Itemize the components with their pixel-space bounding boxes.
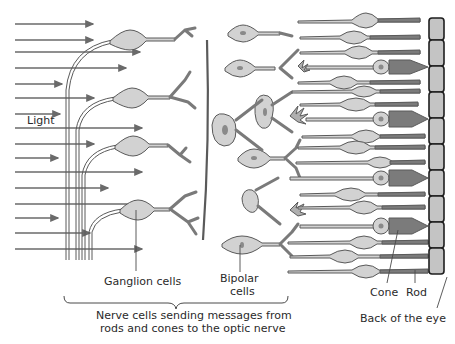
bipolar-cells-label-line1: Bipolar — [220, 272, 259, 285]
rod — [298, 13, 420, 28]
cone — [306, 111, 428, 127]
bipolar-cells-label-line2: cells — [230, 285, 255, 298]
rod — [296, 157, 425, 168]
rod — [300, 46, 420, 59]
rod — [288, 265, 428, 278]
light-label: Light — [27, 114, 54, 127]
rod — [300, 188, 425, 201]
rod — [288, 236, 428, 249]
rod — [290, 250, 428, 263]
photoreceptors — [288, 13, 428, 278]
brace-caption-line1: Nerve cells sending messages from — [96, 309, 292, 322]
cone — [290, 170, 428, 186]
cone — [306, 60, 428, 74]
brace-caption-line2: rods and cones to the optic nerve — [100, 322, 285, 335]
rod-label: Rod — [406, 286, 427, 299]
ganglion-cells-label: Ganglion cells — [104, 275, 181, 288]
rod — [300, 98, 418, 111]
amacrine-process — [203, 40, 208, 240]
rod — [302, 130, 425, 143]
ganglion-axons — [66, 40, 122, 260]
cone-label: Cone — [370, 286, 398, 299]
ganglion-dendrites — [168, 28, 198, 234]
pigment-epithelium — [429, 18, 444, 274]
rod — [292, 86, 420, 97]
ganglion-cells — [110, 30, 175, 220]
back-of-eye-label: Back of the eye — [360, 312, 446, 325]
rod — [298, 201, 425, 214]
rod — [298, 141, 425, 154]
cone — [300, 218, 428, 234]
rod — [300, 31, 420, 44]
